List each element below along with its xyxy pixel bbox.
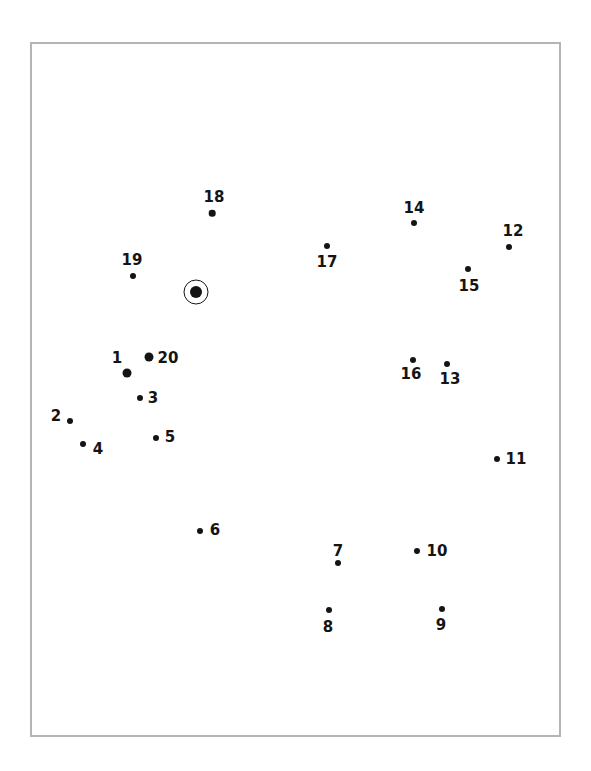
dot-label-2: 2 (51, 409, 61, 424)
dot-5[interactable] (153, 435, 159, 441)
dot-label-10: 10 (427, 544, 448, 559)
dot-label-6: 6 (210, 523, 220, 538)
dot-14[interactable] (411, 220, 417, 226)
circled-dot[interactable] (190, 286, 202, 298)
figure-page: 1234567891011121314151617181920 (0, 0, 591, 771)
dot-label-1: 1 (112, 351, 122, 366)
dot-label-16: 16 (401, 367, 422, 382)
dot-label-13: 13 (440, 372, 461, 387)
dot-17[interactable] (324, 243, 330, 249)
dot-7[interactable] (335, 560, 341, 566)
dot-label-9: 9 (436, 618, 446, 633)
dot-label-11: 11 (506, 452, 527, 467)
dot-8[interactable] (326, 607, 332, 613)
dot-label-12: 12 (503, 224, 524, 239)
dot-19[interactable] (130, 273, 136, 279)
dot-label-19: 19 (122, 253, 143, 268)
dot-12[interactable] (506, 244, 512, 250)
dot-label-17: 17 (317, 255, 338, 270)
dot-label-3: 3 (148, 391, 158, 406)
dot-10[interactable] (414, 548, 420, 554)
dot-label-20: 20 (158, 351, 179, 366)
dot-label-14: 14 (404, 201, 425, 216)
dot-label-15: 15 (459, 279, 480, 294)
dot-18[interactable] (209, 210, 216, 217)
dot-9[interactable] (439, 606, 445, 612)
dot-15[interactable] (465, 266, 471, 272)
dot-3[interactable] (137, 395, 143, 401)
dot-20[interactable] (145, 353, 154, 362)
dot-1[interactable] (123, 369, 132, 378)
dot-2[interactable] (67, 418, 73, 424)
dot-layer: 1234567891011121314151617181920 (0, 0, 591, 771)
dot-11[interactable] (494, 456, 500, 462)
dot-13[interactable] (444, 361, 450, 367)
dot-label-5: 5 (165, 430, 175, 445)
dot-label-7: 7 (333, 544, 343, 559)
dot-4[interactable] (80, 441, 86, 447)
dot-label-4: 4 (93, 442, 103, 457)
dot-16[interactable] (410, 357, 416, 363)
dot-label-18: 18 (204, 190, 225, 205)
dot-label-8: 8 (323, 620, 333, 635)
dot-6[interactable] (197, 528, 203, 534)
